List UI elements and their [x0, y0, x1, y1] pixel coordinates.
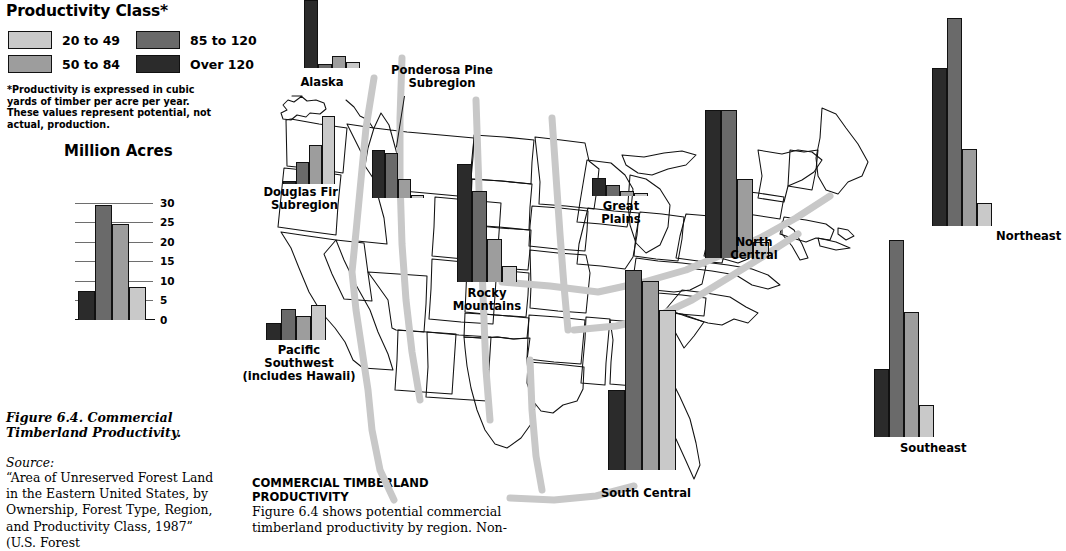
- scale-bar-85-to-120: [95, 205, 112, 320]
- bar-20-to-49: [659, 310, 676, 470]
- bar-over-120: [608, 390, 625, 470]
- state-minnesota: [535, 137, 599, 209]
- bar-over-120: [874, 369, 889, 437]
- region-label-douglas-fir-subregion: Douglas FirSubregion: [210, 186, 338, 212]
- region-label-rocky-mountains: RockyMountains: [428, 287, 546, 313]
- source-citation: “Area of Unreserved Forest Land in the E…: [6, 470, 226, 551]
- scale-chart-plot: 302520151050: [78, 195, 146, 320]
- state-cape-cod: [838, 228, 854, 240]
- bar-85-to-120: [296, 162, 309, 184]
- bargroup-ponderosa-pine-subregion: [372, 150, 424, 198]
- bar-85-to-120: [947, 18, 962, 226]
- legend-label-50-84: 50 to 84: [58, 57, 136, 72]
- scale-gridline: [75, 203, 153, 204]
- bargroup-northeast: [932, 18, 994, 226]
- bar-20-to-49: [502, 266, 517, 282]
- legend-swatch-over-120: [136, 55, 180, 73]
- scale-chart: 302520151050: [70, 180, 220, 320]
- legend-footnote: *Productivity is expressed in cubic yard…: [7, 84, 225, 130]
- region-label-south-central: South Central: [590, 487, 702, 500]
- bar-50-to-84: [487, 239, 502, 282]
- bar-85-to-120: [625, 270, 642, 470]
- region-label-northeast: Northeast: [996, 230, 1066, 243]
- bar-over-120: [304, 0, 318, 68]
- bar-85-to-120: [385, 153, 398, 198]
- state-utah: [368, 272, 427, 332]
- region-label-north-central: NorthCentral: [698, 236, 810, 262]
- bargroup-south-central: [608, 270, 676, 470]
- state-arkansas: [527, 315, 585, 364]
- bar-85-to-120: [889, 240, 904, 437]
- bar-over-120: [372, 150, 385, 198]
- bargroup-douglas-fir-subregion: [283, 116, 337, 184]
- state-maine: [816, 108, 868, 194]
- bar-50-to-84: [904, 312, 919, 437]
- state-michigan-up: [622, 151, 696, 175]
- bar-85-to-120: [318, 64, 332, 68]
- scale-bar-50-to-84: [112, 224, 129, 320]
- legend-swatch-50-84: [8, 55, 52, 73]
- bar-50-to-84: [296, 316, 311, 341]
- state-new-mexico: [426, 332, 491, 401]
- scale-tick-label: 15: [160, 255, 175, 267]
- productivity-class-legend: 20 to 49 85 to 120 50 to 84 Over 120: [8, 30, 223, 74]
- bar-over-120: [457, 164, 472, 282]
- region-label-great-plains: GreatPlains: [580, 200, 662, 226]
- region-label-southeast: Southeast: [900, 442, 1012, 455]
- bar-20-to-49: [634, 193, 648, 196]
- bar-85-to-120: [472, 191, 487, 282]
- legend-title: Productivity Class*: [6, 2, 168, 20]
- scale-bar-20-to-49: [129, 287, 146, 320]
- bar-over-120: [592, 178, 606, 196]
- scale-bar-over-120: [78, 291, 95, 320]
- region-label-ponderosa-pine-subregion: Ponderosa PineSubregion: [372, 64, 512, 90]
- bar-over-120: [266, 323, 281, 341]
- region-label-alaska: Alaska: [272, 76, 372, 89]
- scale-tick-label: 25: [160, 216, 175, 228]
- scale-tick-label: 10: [160, 275, 175, 287]
- bar-50-to-84: [398, 179, 411, 198]
- scale-tick-label: 0: [160, 314, 167, 326]
- scale-tick-label: 20: [160, 236, 175, 248]
- bargroup-southeast: [874, 240, 936, 437]
- scale-chart-title: Million Acres: [64, 142, 173, 160]
- scale-tick-label: 5: [160, 294, 167, 306]
- legend-swatch-20-49: [8, 31, 52, 49]
- scale-gridline: [75, 222, 153, 223]
- state-texas: [464, 337, 535, 448]
- bar-20-to-49: [919, 405, 934, 437]
- bar-over-120: [932, 68, 947, 226]
- boundary-great-plains-east: [552, 118, 568, 330]
- boundary-south-central-east: [530, 360, 542, 490]
- bar-50-to-84: [309, 145, 322, 184]
- bargroup-pacific-southwest: [266, 305, 328, 340]
- bar-20-to-49: [977, 203, 992, 226]
- bar-50-to-84: [332, 56, 346, 68]
- legend-swatch-85-120: [136, 31, 180, 49]
- state-arizona: [395, 330, 456, 394]
- bar-20-to-49: [311, 305, 326, 340]
- scale-tick-label: 30: [160, 197, 175, 209]
- bar-20-to-49: [346, 62, 360, 68]
- region-label-pacific-southwest: PacificSouthwest(includes Hawaii): [238, 344, 360, 383]
- source-label: Source:: [6, 455, 54, 470]
- state-louisiana: [527, 362, 584, 413]
- bar-50-to-84: [620, 191, 634, 196]
- figure-caption: Figure 6.4. Commercial Timberland Produc…: [6, 410, 221, 440]
- state-nevada: [324, 240, 372, 301]
- bar-20-to-49: [322, 116, 335, 184]
- legend-label-20-49: 20 to 49: [58, 33, 136, 48]
- bar-50-to-84: [962, 149, 977, 226]
- bargroup-great-plains: [592, 178, 648, 196]
- bar-85-to-120: [281, 309, 296, 341]
- bargroup-rocky-mountains: [457, 164, 517, 282]
- bar-20-to-49: [411, 195, 424, 198]
- bar-85-to-120: [606, 185, 620, 196]
- state-oklahoma: [464, 313, 529, 339]
- bar-over-120: [283, 181, 296, 184]
- bargroup-alaska: [304, 0, 360, 68]
- bar-50-to-84: [642, 281, 659, 470]
